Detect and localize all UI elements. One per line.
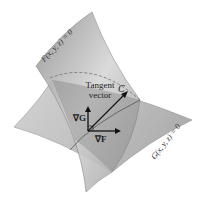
tangent-label-line2: vector (78, 91, 122, 100)
tangent-label-line1: Tangent (78, 81, 122, 90)
curve-c-label: C (118, 84, 125, 94)
grad-f-label: ∇F (95, 135, 107, 144)
diagram-canvas (0, 0, 197, 202)
grad-g-label: ∇G (73, 114, 86, 123)
